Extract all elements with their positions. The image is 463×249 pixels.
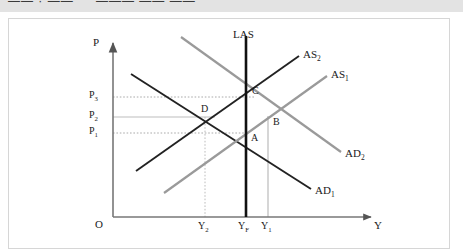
point-label-b: B (273, 117, 280, 127)
tick-label-yf: YF (238, 221, 249, 234)
header-text-fragment-1: —— · —— (8, 0, 74, 8)
curve-label-ad1: AD1 (315, 185, 335, 199)
curve-ad1 (131, 74, 311, 189)
header-band: —— · —— ——— —— —— (0, 0, 463, 12)
header-text-fragment-2: ——— —— —— (96, 0, 196, 8)
point-label-a: A (251, 133, 258, 143)
y-axis-label: P (93, 37, 99, 48)
tick-label-y1: Y1 (261, 221, 272, 234)
curve-label-as1: AS1 (331, 69, 349, 83)
ad-as-diagram (9, 19, 451, 249)
curve-label-las: LAS (233, 29, 254, 40)
curve-label-ad2: AD2 (345, 148, 365, 162)
origin-label: O (95, 219, 103, 230)
curve-label-as2: AS2 (303, 49, 321, 63)
x-axis-label: Y (374, 220, 382, 231)
tick-label-p3: P3 (89, 90, 98, 103)
point-label-c: C (252, 86, 259, 96)
point-label-d: D (201, 104, 208, 114)
figure-frame: P Y O P3 P2 P1 Y2 YF Y1 LAS AS2 AS1 AD2 … (8, 18, 450, 249)
tick-label-y2: Y2 (198, 221, 209, 234)
tick-label-p1: P1 (89, 126, 98, 139)
tick-label-p2: P2 (89, 110, 98, 123)
